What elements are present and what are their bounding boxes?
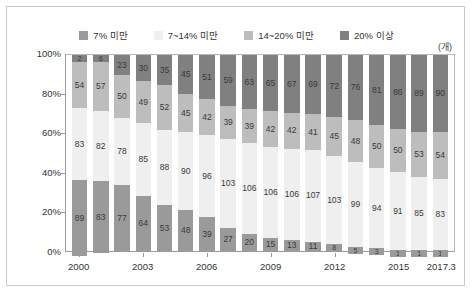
- x-axis-tick-label: 2006: [196, 261, 217, 272]
- bar-column[interactable]: 8650911: [387, 55, 408, 251]
- bar-segment: 85: [136, 123, 151, 196]
- legend-swatch-icon: [244, 31, 253, 40]
- bar-column[interactable]: 51429639: [196, 55, 217, 251]
- bar-value-label: 106: [263, 188, 277, 197]
- bar-value-label: 23: [117, 61, 126, 70]
- bar-segment: 15: [263, 238, 278, 251]
- bar-segment: 81: [369, 55, 384, 125]
- bar-column[interactable]: 674210613: [281, 55, 302, 251]
- bar-column[interactable]: 72451038: [324, 55, 345, 251]
- bar-value-label: 39: [202, 230, 211, 239]
- bar-segment: 6: [93, 55, 108, 62]
- bar-segment: 64: [136, 196, 151, 251]
- bar-segment: 51: [199, 55, 214, 99]
- stacked-bar: 9054831: [433, 55, 448, 251]
- stacked-bar: 694110711: [305, 55, 320, 251]
- bar-segment: 83: [93, 181, 108, 252]
- chart-legend: 7% 미만7~14% 미만14~20% 미만20% 이상: [7, 27, 466, 43]
- bar-segment: 35: [157, 55, 172, 85]
- bar-column[interactable]: 6578283: [90, 55, 111, 251]
- bar-value-label: 90: [181, 167, 190, 176]
- bar-column[interactable]: 654210615: [260, 55, 281, 251]
- bar-column[interactable]: 35528853: [154, 55, 175, 251]
- bar-segment: 63: [242, 55, 257, 109]
- bar-value-label: 64: [139, 219, 148, 228]
- bar-segment: 42: [199, 99, 214, 135]
- bar-value-label: 85: [414, 209, 423, 218]
- legend-swatch-icon: [154, 31, 163, 40]
- bar-value-label: 53: [414, 150, 423, 159]
- stacked-bar: 30498564: [136, 55, 151, 251]
- legend-label: 20% 이상: [354, 28, 394, 42]
- y-axis-tick-label: 0%: [25, 246, 61, 257]
- x-axis-tick-label: 2015: [388, 261, 409, 272]
- bar-value-label: 65: [266, 79, 275, 88]
- bar-value-label: 69: [308, 80, 317, 89]
- stacked-bar: 2548389: [72, 55, 87, 251]
- bar-segment: 48: [348, 120, 363, 161]
- bar-column[interactable]: 633910620: [239, 55, 260, 251]
- stacked-bar: 674210613: [284, 55, 299, 251]
- stacked-bar: 8150943: [369, 55, 384, 251]
- bar-value-label: 94: [372, 204, 381, 213]
- bar-value-label: 88: [160, 163, 169, 172]
- legend-item-0[interactable]: 7% 미만: [79, 28, 127, 42]
- bar-segment: 39: [199, 217, 214, 251]
- bar-value-label: 45: [181, 70, 190, 79]
- bar-column[interactable]: 8953851: [409, 55, 430, 251]
- bar-value-label: 63: [245, 78, 254, 87]
- bar-segment: 45: [326, 117, 341, 156]
- bar-segment: 88: [157, 130, 172, 206]
- bar-value-label: 86: [393, 88, 402, 97]
- stacked-bar: 23507877: [114, 55, 129, 251]
- bar-value-label: 107: [306, 191, 320, 200]
- y-axis-tick: [61, 212, 65, 213]
- legend-item-1[interactable]: 7~14% 미만: [154, 28, 219, 42]
- bar-value-label: 72: [329, 82, 338, 91]
- bar-column[interactable]: 7648995: [345, 55, 366, 251]
- bar-column[interactable]: 9054831: [430, 55, 451, 251]
- bar-value-label: 42: [287, 126, 296, 135]
- bar-value-label: 83: [75, 140, 84, 149]
- y-axis-tick: [61, 173, 65, 174]
- bar-segment: 42: [263, 111, 278, 147]
- bar-value-label: 77: [117, 214, 126, 223]
- bar-column[interactable]: 2548389: [69, 55, 90, 251]
- bar-segment: 89: [411, 55, 426, 132]
- bar-value-label: 50: [393, 146, 402, 155]
- bar-segment: 57: [93, 62, 108, 111]
- bar-column[interactable]: 30498564: [133, 55, 154, 251]
- bar-value-label: 96: [202, 172, 211, 181]
- legend-item-3[interactable]: 20% 이상: [340, 28, 394, 42]
- y-axis-tick-label: 40%: [25, 167, 61, 178]
- bar-value-label: 103: [221, 179, 235, 188]
- bar-column[interactable]: 694110711: [302, 55, 323, 251]
- x-axis-tick: [441, 253, 442, 257]
- x-axis-tick: [79, 253, 80, 257]
- bar-segment: 99: [348, 162, 363, 247]
- y-axis-tick-label: 20%: [25, 206, 61, 217]
- bar-segment: 82: [93, 111, 108, 181]
- bar-segment: 48: [178, 210, 193, 251]
- bar-value-label: 41: [308, 128, 317, 137]
- stacked-bar: 654210615: [263, 55, 278, 251]
- bar-segment: 90: [433, 55, 448, 132]
- bar-column[interactable]: 45459048: [175, 55, 196, 251]
- axis-unit-label: (개): [438, 40, 452, 53]
- bar-column[interactable]: 8150943: [366, 55, 387, 251]
- bar-segment: 72: [326, 55, 341, 117]
- bar-column[interactable]: 593910327: [218, 55, 239, 251]
- bar-segment: 45: [178, 55, 193, 94]
- bar-segment: 96: [199, 135, 214, 218]
- bar-segment: 2: [72, 55, 87, 62]
- legend-item-2[interactable]: 14~20% 미만: [244, 28, 314, 42]
- plot-area: 2548389657828323507877304985643552885345…: [65, 54, 455, 252]
- bar-segment: 54: [72, 62, 87, 108]
- bar-value-label: 13: [287, 241, 296, 250]
- bar-value-label: 2: [78, 55, 82, 62]
- stacked-bar: 45459048: [178, 55, 193, 251]
- bar-segment: 39: [242, 109, 257, 143]
- stacked-bar: 51429639: [199, 55, 214, 251]
- bar-segment: 91: [390, 172, 405, 250]
- bar-column[interactable]: 23507877: [111, 55, 132, 251]
